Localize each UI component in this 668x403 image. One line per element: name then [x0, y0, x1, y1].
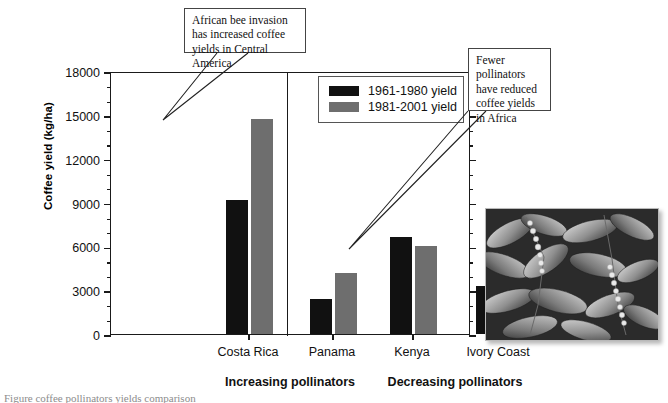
y-tick-12000	[104, 160, 111, 161]
x-tick-1	[332, 334, 333, 340]
chart-page: Coffee yield (kg/ha) 0300060009000120001…	[0, 0, 668, 403]
y-tick-label-18000: 18000	[65, 66, 100, 80]
y-minor-tick	[107, 175, 111, 176]
y-minor-tick	[107, 233, 111, 234]
category-label-panama: Panama	[309, 345, 356, 359]
annotation-callout-africa: Fewer pollinators have reduced coffee yi…	[468, 48, 551, 111]
y-minor-tick	[107, 262, 111, 263]
category-label-ivory-coast: Ivory Coast	[466, 345, 529, 359]
y-tick-15000	[469, 116, 476, 117]
y-tick-15000	[104, 116, 111, 117]
y-minor-tick	[469, 145, 473, 146]
y-minor-tick	[107, 277, 111, 278]
legend-label-0: 1961-1980 yield	[368, 84, 457, 98]
y-tick-label-12000: 12000	[65, 154, 100, 168]
bar-panama-series-0	[310, 299, 332, 334]
legend-swatch-icon-0	[329, 86, 359, 96]
bar-kenya-series-0	[390, 237, 412, 334]
y-minor-tick	[469, 131, 473, 132]
y-tick-12000	[469, 160, 476, 161]
y-axis-title: Coffee yield (kg/ha)	[42, 56, 54, 256]
bar-panama-series-1	[335, 273, 357, 334]
y-tick-9000	[469, 204, 476, 205]
y-minor-tick	[469, 277, 473, 278]
y-tick-label-3000: 3000	[72, 285, 100, 299]
y-tick-6000	[104, 248, 111, 249]
y-minor-tick	[107, 145, 111, 146]
legend-item-1: 1981-2001 yield	[329, 99, 455, 115]
y-minor-tick	[107, 102, 111, 103]
x-tick-2	[412, 334, 413, 340]
category-label-kenya: Kenya	[394, 345, 429, 359]
legend-item-0: 1961-1980 yield	[329, 83, 455, 99]
y-tick-label-0: 0	[93, 329, 100, 343]
y-minor-tick	[469, 306, 473, 307]
y-minor-tick	[469, 262, 473, 263]
y-tick-label-9000: 9000	[72, 198, 100, 212]
figure-caption-sliver: Figure coffee pollinators yields compari…	[4, 392, 664, 403]
group-label-0: Increasing pollinators	[225, 375, 355, 389]
y-tick-label-6000: 6000	[72, 241, 100, 255]
coffee-plant-photo	[485, 208, 659, 341]
y-minor-tick	[469, 321, 473, 322]
legend-label-1: 1981-2001 yield	[368, 100, 457, 114]
y-tick-0	[469, 335, 476, 336]
y-minor-tick	[469, 233, 473, 234]
y-minor-tick	[469, 175, 473, 176]
y-minor-tick	[469, 219, 473, 220]
y-tick-6000	[469, 248, 476, 249]
y-minor-tick	[107, 306, 111, 307]
y-tick-0	[104, 335, 111, 336]
bar-costa-rica-series-1	[251, 119, 273, 334]
annotation-callout-central-america: African bee invasion has increased coffe…	[184, 8, 306, 53]
y-minor-tick	[469, 189, 473, 190]
y-minor-tick	[107, 87, 111, 88]
y-minor-tick	[107, 189, 111, 190]
y-minor-tick	[107, 321, 111, 322]
group-divider	[287, 73, 288, 336]
y-tick-18000	[104, 72, 111, 73]
group-label-1: Decreasing pollinators	[388, 375, 523, 389]
y-tick-9000	[104, 204, 111, 205]
y-minor-tick	[107, 131, 111, 132]
bar-kenya-series-1	[415, 246, 437, 334]
bar-costa-rica-series-0	[226, 200, 248, 334]
y-tick-label-15000: 15000	[65, 110, 100, 124]
legend-swatch-icon-1	[329, 102, 359, 112]
x-tick-0	[248, 334, 249, 340]
y-minor-tick	[107, 219, 111, 220]
y-tick-3000	[104, 291, 111, 292]
chart-legend: 1961-1980 yield 1981-2001 yield	[318, 76, 464, 123]
category-label-costa-rica: Costa Rica	[217, 345, 278, 359]
